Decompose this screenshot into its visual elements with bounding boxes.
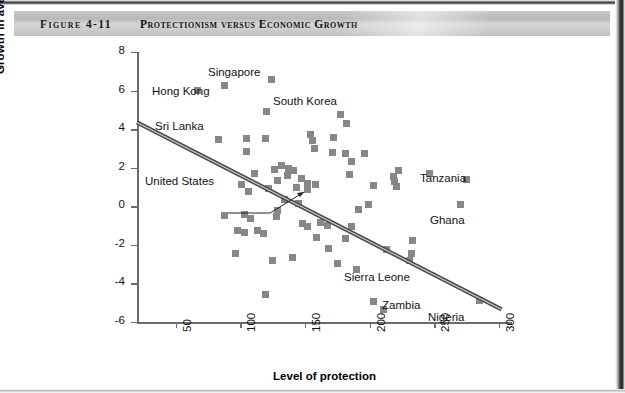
point-annotation: Zambia [382,299,420,311]
united-states-leader-line [0,40,625,390]
point-annotation: Ghana [430,214,465,226]
figure-number: Figure 4-11 [40,18,112,30]
point-annotation: South Korea [273,95,337,107]
point-annotation: United States [145,175,214,187]
figure-page: Figure 4-11 Protectionism versus Economi… [0,0,625,393]
point-annotation: Sierra Leone [344,271,410,283]
figure-title: Protectionism versus Economic Growth [140,18,358,30]
point-annotation: Hong Kong [152,85,210,97]
point-annotation: Tanzania [420,172,466,184]
scatter-chart: Growth in average yearly income per capi… [0,40,625,390]
figure-title-bar: Figure 4-11 Protectionism versus Economi… [14,11,610,36]
point-annotation: Sri Lanka [155,120,204,132]
point-annotation: Nigeria [428,311,464,323]
scan-edge-top [0,0,625,5]
point-annotation: Singapore [208,66,260,78]
